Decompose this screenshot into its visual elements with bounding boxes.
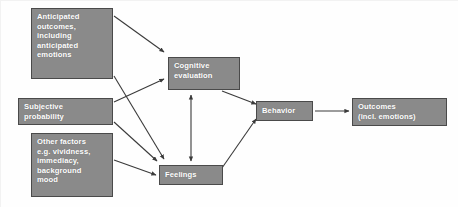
node-subjective-probability[interactable]: Subjective probability xyxy=(18,98,113,125)
node-line: mood xyxy=(37,175,108,185)
node-subjective-probability-text: Subjective probability xyxy=(24,102,108,121)
node-line: Outcomes xyxy=(358,102,442,112)
node-cognitive-evaluation[interactable]: Cognitive evaluation xyxy=(168,57,240,90)
node-anticipated-outcomes[interactable]: Anticipated outcomes, including anticipa… xyxy=(31,8,113,79)
node-line: emotions xyxy=(37,50,108,60)
node-line: Subjective xyxy=(24,102,108,112)
node-feelings[interactable]: Feelings xyxy=(159,165,223,185)
arrow-other-to-feelings xyxy=(114,160,156,175)
node-line: Anticipated xyxy=(37,12,108,22)
node-line: immediacy, xyxy=(37,156,108,166)
node-outcomes[interactable]: Outcomes (incl. emotions) xyxy=(352,98,447,126)
node-behavior[interactable]: Behavior xyxy=(256,101,313,121)
arrow-feelings-to-behavior xyxy=(222,119,256,168)
node-feelings-text: Feelings xyxy=(165,169,218,180)
arrow-cognitive-to-behavior xyxy=(222,91,256,104)
node-line: probability xyxy=(24,112,108,122)
node-line: Behavior xyxy=(262,106,308,116)
node-other-factors-text: Other factors e.g. vividness, immediacy,… xyxy=(37,137,108,185)
arrow-subjective-to-cognitive xyxy=(114,79,164,102)
arrow-anticipated-to-feelings xyxy=(114,76,164,159)
node-anticipated-outcomes-text: Anticipated outcomes, including anticipa… xyxy=(37,12,108,60)
node-outcomes-text: Outcomes (incl. emotions) xyxy=(358,102,442,121)
node-line: (incl. emotions) xyxy=(358,112,442,122)
node-cognitive-evaluation-text: Cognitive evaluation xyxy=(174,61,235,80)
node-line: including xyxy=(37,31,108,41)
node-line: anticipated xyxy=(37,41,108,51)
node-line: background xyxy=(37,166,108,176)
node-other-factors[interactable]: Other factors e.g. vividness, immediacy,… xyxy=(31,133,113,197)
arrow-anticipated-to-cognitive xyxy=(114,16,164,52)
node-line: e.g. vividness, xyxy=(37,147,108,157)
arrow-subjective-to-feelings xyxy=(114,122,157,161)
node-line: Cognitive xyxy=(174,61,235,71)
node-behavior-text: Behavior xyxy=(262,105,308,116)
node-line: Other factors xyxy=(37,137,108,147)
node-line: Feelings xyxy=(165,170,218,180)
diagram-canvas: Anticipated outcomes, including anticipa… xyxy=(0,0,458,207)
node-line: outcomes, xyxy=(37,22,108,32)
node-line: evaluation xyxy=(174,71,235,81)
